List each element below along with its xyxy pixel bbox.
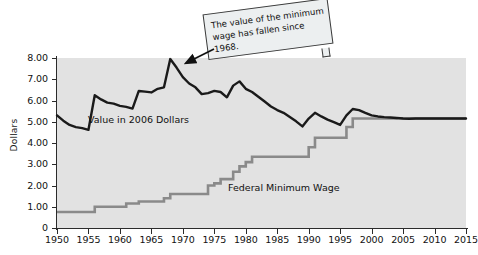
chart-canvas: Dollars 01.002.003.004.005.006.007.008.0…	[0, 0, 478, 255]
annotation-arrow	[0, 0, 478, 255]
